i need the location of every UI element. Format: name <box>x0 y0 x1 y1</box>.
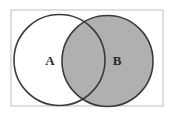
venn-diagram-canvas: A B <box>0 0 174 116</box>
set-label-b: B <box>113 53 122 68</box>
venn-diagram: A B <box>0 0 174 116</box>
set-label-a: A <box>45 53 55 68</box>
